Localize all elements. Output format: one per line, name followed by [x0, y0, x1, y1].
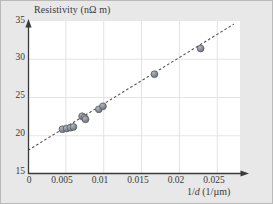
x-tick-label: 0.015: [118, 175, 158, 185]
x-axis-arrowhead: [241, 170, 250, 176]
plot-area: [28, 21, 240, 174]
x-axis-title: 1/d (1/µm): [187, 186, 230, 197]
data-point: [151, 71, 158, 78]
x-tick-label: 0.01: [80, 175, 120, 185]
x-tick-label: 0.025: [194, 175, 234, 185]
y-tick-label: 20: [3, 128, 25, 138]
y-tick-label: 25: [3, 90, 25, 100]
data-point: [70, 124, 77, 131]
trendline-path: [28, 24, 234, 150]
data-points: [59, 45, 204, 133]
data-point: [100, 103, 107, 110]
x-tick-label: 0.005: [42, 175, 82, 185]
x-axis-title-prefix: 1/: [187, 186, 195, 197]
plot-canvas: [28, 21, 240, 174]
y-axis-title: Resistivity (nΩ m): [34, 4, 110, 15]
y-tick-label: 30: [3, 52, 25, 62]
figure-container: Resistivity (nΩ m) 35 30 25 20 15 0 0.00…: [0, 0, 273, 204]
gridlines: [28, 21, 240, 174]
data-point: [197, 45, 204, 52]
trendline: [28, 24, 234, 150]
x-tick-label: 0.02: [156, 175, 196, 185]
x-axis-title-suffix: (1/µm): [200, 186, 230, 197]
y-tick-label: 35: [3, 15, 25, 25]
data-point: [82, 116, 89, 123]
